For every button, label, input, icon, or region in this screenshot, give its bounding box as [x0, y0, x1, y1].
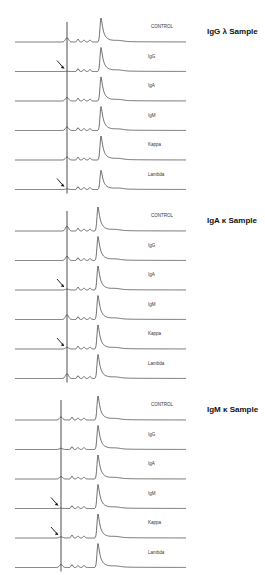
trace-label: IgM	[148, 491, 156, 496]
trace-label: IgG	[148, 243, 156, 248]
trace-lambda	[15, 355, 186, 379]
trace-igg	[15, 426, 186, 450]
panel-2: IgM κ SampleCONTROLIgGIgAIgMKappaLambda	[15, 396, 259, 572]
trace-label: IgA	[148, 83, 155, 88]
trace-label: Lambda	[148, 550, 165, 555]
trace-label: IgA	[148, 461, 155, 466]
trace-kappa	[15, 136, 186, 160]
trace-igm	[15, 296, 186, 320]
trace-igm	[15, 107, 186, 131]
panel-0: IgG λ SampleCONTROLIgGIgAIgMKappaLambda	[15, 18, 258, 194]
trace-igg	[15, 237, 186, 261]
panel-1: IgA κ SampleCONTROLIgGIgAIgMKappaLambda	[15, 207, 258, 383]
panel-title: IgM κ Sample	[207, 405, 259, 414]
trace-control	[15, 396, 186, 420]
trace-igg	[15, 48, 186, 72]
trace-label: IgM	[148, 302, 156, 307]
electrophoresis-figure: IgG λ SampleCONTROLIgGIgAIgMKappaLambdaI…	[0, 0, 265, 575]
trace-iga	[15, 266, 186, 290]
trace-control	[15, 18, 186, 42]
panel-title: IgG λ Sample	[207, 27, 258, 36]
trace-iga	[15, 77, 186, 101]
trace-label: Lambda	[148, 172, 165, 177]
trace-label: Lambda	[148, 361, 165, 366]
trace-label: CONTROL	[151, 213, 173, 218]
trace-label: IgG	[148, 432, 156, 437]
trace-iga	[15, 455, 186, 479]
trace-label: CONTROL	[151, 24, 173, 29]
trace-label: Kappa	[148, 520, 162, 525]
trace-igm	[15, 485, 186, 509]
trace-kappa	[15, 514, 186, 538]
trace-label: IgA	[148, 272, 155, 277]
trace-label: IgG	[148, 54, 156, 59]
trace-lambda	[15, 544, 186, 568]
trace-kappa	[15, 325, 186, 349]
trace-control	[15, 207, 186, 231]
trace-label: Kappa	[148, 142, 162, 147]
trace-label: IgM	[148, 113, 156, 118]
panel-title: IgA κ Sample	[207, 216, 258, 225]
trace-label: CONTROL	[151, 402, 173, 407]
trace-label: Kappa	[148, 331, 162, 336]
